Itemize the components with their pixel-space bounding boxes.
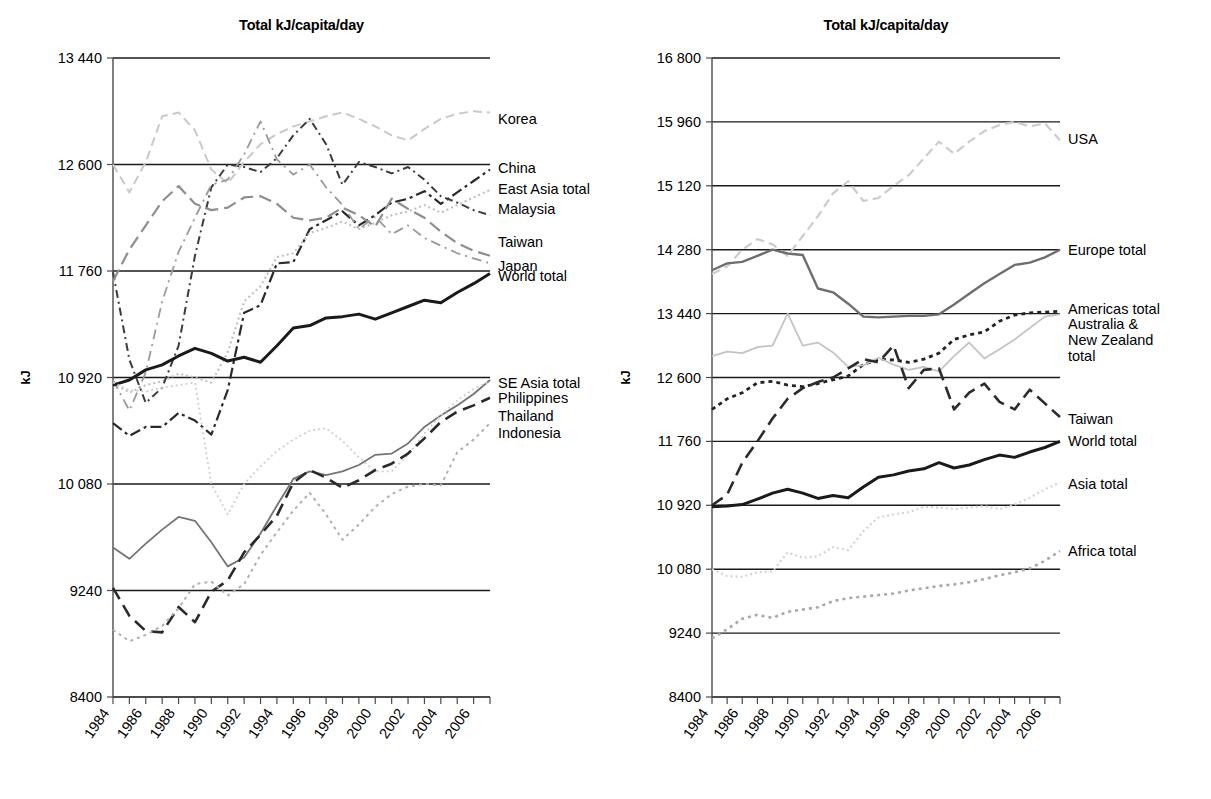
series-label: China: [498, 160, 537, 176]
y-tick-label: 12 600: [58, 157, 102, 173]
x-tick-label: 1996: [861, 706, 893, 742]
x-tick-label: 2004: [409, 706, 441, 742]
y-tick-label: 10 920: [58, 370, 102, 386]
y-tick-label: 10 080: [58, 476, 102, 492]
x-tick-label: 1998: [310, 706, 342, 742]
line-chart-right: Total kJ/capita/daykJ8400924010 08010 92…: [600, 0, 1211, 799]
x-tick-label: 2000: [922, 706, 954, 742]
chart-panel-right: Total kJ/capita/daykJ8400924010 08010 92…: [600, 0, 1211, 799]
x-tick-label: 2006: [1013, 706, 1045, 742]
series-line: [113, 398, 490, 633]
x-tick-label: 1998: [892, 706, 924, 742]
x-tick-label: 1988: [146, 706, 178, 742]
series-label: East Asia total: [498, 181, 590, 197]
y-tick-label: 13 440: [58, 50, 102, 66]
y-tick-label: 9240: [70, 583, 102, 599]
y-tick-label: 14 280: [657, 242, 701, 258]
series-label: Asia total: [1068, 476, 1128, 492]
series-label: Thailand: [498, 408, 554, 424]
series-line: [712, 551, 1060, 638]
x-tick-label: 2004: [982, 706, 1014, 742]
x-tick-label: 1996: [278, 706, 310, 742]
y-tick-label: 12 600: [657, 370, 701, 386]
x-tick-label: 1984: [680, 706, 712, 742]
x-tick-label: 2006: [441, 706, 473, 742]
y-tick-label: 15 960: [657, 114, 701, 130]
series-label: total: [1068, 348, 1095, 364]
series-label: Indonesia: [498, 425, 562, 441]
series-label: Africa total: [1068, 543, 1137, 559]
y-tick-label: 8400: [669, 689, 701, 705]
series-label: World total: [1068, 433, 1137, 449]
series-line: [712, 314, 1060, 372]
x-tick-label: 2002: [952, 706, 984, 742]
y-tick-label: 9240: [669, 625, 701, 641]
series-label: Australia &: [1068, 316, 1138, 332]
series-label: Malaysia: [498, 201, 556, 217]
series-label: SE Asia total: [498, 375, 580, 391]
y-axis-title: kJ: [618, 370, 633, 384]
series-label: Taiwan: [1068, 411, 1113, 427]
series-line: [712, 346, 1060, 506]
x-tick-label: 1988: [740, 706, 772, 742]
series-line: [113, 380, 490, 566]
x-tick-label: 1990: [771, 706, 803, 742]
series-label: New Zealand: [1068, 332, 1153, 348]
series-label: Philippines: [498, 390, 568, 406]
chart-panel-left: Total kJ/capita/daykJ8400924010 08010 92…: [0, 0, 600, 799]
series-line: [113, 111, 490, 192]
series-label: World total: [498, 268, 567, 284]
x-tick-label: 2000: [343, 706, 375, 742]
x-tick-label: 1986: [710, 706, 742, 742]
y-tick-label: 11 760: [658, 433, 701, 449]
x-tick-label: 1994: [245, 706, 277, 742]
y-tick-label: 11 760: [59, 263, 102, 279]
series-label: Taiwan: [498, 234, 543, 250]
x-tick-label: 1992: [212, 706, 244, 742]
series-label: Europe total: [1068, 242, 1146, 258]
x-tick-label: 1984: [81, 706, 113, 742]
series-line: [113, 274, 490, 386]
x-tick-label: 2002: [376, 706, 408, 742]
x-tick-label: 1992: [801, 706, 833, 742]
x-tick-label: 1986: [114, 706, 146, 742]
y-tick-label: 13 440: [657, 306, 701, 322]
y-axis-title: kJ: [18, 370, 33, 384]
chart-title: Total kJ/capita/day: [239, 17, 364, 33]
series-line: [113, 423, 490, 641]
series-label: Americas total: [1068, 301, 1160, 317]
x-tick-label: 1994: [831, 706, 863, 742]
y-tick-label: 15 120: [657, 178, 701, 194]
series-label: USA: [1068, 131, 1098, 147]
series-line: [712, 441, 1060, 506]
series-line: [113, 186, 490, 281]
series-line: [712, 250, 1060, 318]
y-tick-label: 8400: [70, 689, 102, 705]
y-tick-label: 10 080: [657, 561, 701, 577]
line-chart-left: Total kJ/capita/daykJ8400924010 08010 92…: [0, 0, 600, 799]
series-line: [712, 122, 1060, 274]
series-label: Korea: [498, 111, 538, 127]
y-tick-label: 10 920: [657, 497, 701, 513]
x-tick-label: 1990: [179, 706, 211, 742]
series-line: [113, 381, 490, 514]
chart-title: Total kJ/capita/day: [824, 17, 949, 33]
y-tick-label: 16 800: [657, 50, 701, 66]
